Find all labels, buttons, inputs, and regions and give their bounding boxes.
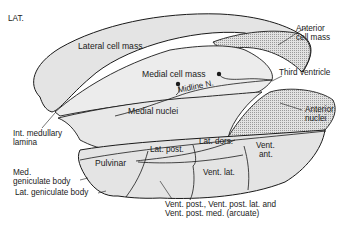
vent-post-callout-1: Vent. post., Vent. post. lat. and: [165, 200, 276, 209]
vent-ant-label-1: Vent.: [256, 141, 275, 150]
anterior-cell-mass-callout-2: cell mass: [296, 33, 330, 42]
medial-cell-mass-label: Medial cell mass: [142, 70, 206, 79]
anterior-nuclei-callout-1: Anterior: [305, 105, 334, 114]
lat-post-label: Lat. post.: [150, 145, 184, 154]
medial-nuclei-label: Medial nuclei: [128, 107, 178, 116]
vent-ant-label-2: ant.: [259, 150, 273, 159]
lateral-cell-mass-label: Lateral cell mass: [78, 42, 142, 51]
lat-geniculate-callout: Lat. geniculate body: [15, 188, 88, 197]
anterior-cell-mass-callout-1: Anterior: [296, 24, 325, 33]
anterior-nuclei-callout-2: nuclei: [305, 114, 326, 123]
med-geniculate-callout-1: Med.: [13, 168, 31, 177]
third-ventricle-callout: Third ventricle: [279, 68, 330, 77]
vent-lat-label: Vent. lat.: [203, 168, 235, 177]
vent-post-callout-2: Vent. post. med. (arcuate): [165, 209, 259, 218]
int-medullary-callout-2: lamina: [13, 138, 37, 147]
med-geniculate-callout-2: geniculate body: [13, 177, 70, 186]
int-medullary-callout-1: Int. medullary: [13, 129, 62, 138]
pulvinar-label: Pulvinar: [95, 159, 126, 168]
orientation-label: LAT.: [8, 14, 24, 23]
lat-dors-label: Lat. dors.: [199, 137, 233, 146]
